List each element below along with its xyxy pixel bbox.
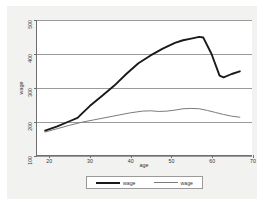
series-lines — [37, 20, 252, 155]
y-axis-tick-label: 500 — [28, 20, 33, 29]
gridline — [37, 156, 252, 157]
graph-region: wage 100200300400500203040506070 age wag… — [7, 6, 257, 199]
y-axis-tick-label: 200 — [28, 122, 33, 131]
y-axis-tick-label: 100 — [28, 156, 33, 165]
x-axis-title: age — [36, 162, 252, 168]
y-axis-tick-label: 300 — [28, 88, 33, 97]
legend-label-series-2: wage — [181, 180, 193, 186]
legend-swatch-series-2 — [154, 182, 178, 183]
legend-swatch-series-1 — [96, 182, 120, 184]
chart-container: wage 100200300400500203040506070 age wag… — [0, 0, 264, 205]
y-axis-tick-label: 400 — [28, 54, 33, 63]
legend-label-series-1: wage — [123, 180, 135, 186]
y-axis-tick — [34, 156, 37, 157]
legend-item: wage — [154, 180, 193, 186]
chart-legend: wage wage — [86, 176, 203, 189]
legend-item: wage — [96, 180, 135, 186]
series-line-1 — [45, 37, 240, 131]
y-axis-title: wage — [18, 82, 24, 95]
plot-area: 100200300400500203040506070 — [36, 20, 252, 156]
